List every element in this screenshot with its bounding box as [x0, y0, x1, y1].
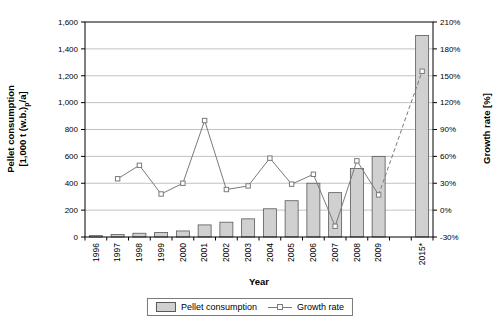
- right-axis-title: Growth rate [%]: [479, 69, 494, 189]
- y-left-tick-label: 1,000: [58, 98, 79, 107]
- growth-marker: [224, 187, 228, 191]
- growth-marker: [289, 182, 293, 186]
- x-tick-label: 2006: [308, 243, 318, 262]
- x-tick-label: 2001: [199, 243, 209, 262]
- y-left-tick-label: 800: [65, 125, 79, 134]
- y-right-tick-label: 120%: [440, 98, 460, 107]
- y-left-tick-label: 1,200: [58, 72, 79, 81]
- y-left-tick-label: 600: [65, 152, 79, 161]
- y-right-tick-label: -30%: [440, 233, 459, 242]
- bar-2015*: [416, 35, 429, 237]
- growth-marker: [246, 184, 250, 188]
- bar-2002: [220, 222, 233, 237]
- bar-2008: [350, 168, 363, 237]
- x-tick-label: 2015*: [417, 242, 427, 265]
- pellet-consumption-chart: 1,6001,4001,2001,0008006004002000210%180…: [0, 0, 500, 331]
- y-left-tick-label: 400: [65, 179, 79, 188]
- y-right-tick-label: 150%: [440, 72, 460, 81]
- bar-2000: [176, 231, 189, 237]
- x-tick-label: 2003: [243, 243, 253, 262]
- y-left-tick-label: 200: [65, 206, 79, 215]
- left-axis-title-line1: Pellet consumption: [5, 19, 17, 239]
- bar-2004: [263, 209, 276, 237]
- growth-marker: [181, 181, 185, 185]
- x-axis-title: Year: [85, 276, 433, 287]
- x-tick-label: 2002: [221, 243, 231, 262]
- x-tick-label: 2009: [373, 243, 383, 262]
- legend-growth-label: Growth rate: [297, 302, 344, 312]
- growth-marker: [311, 172, 315, 176]
- growth-rate-line-icon: [268, 303, 292, 312]
- y-left-tick-label: 1,400: [58, 45, 79, 54]
- x-tick-label: 2005: [286, 243, 296, 262]
- left-axis-title-line2: [1,000 t (w.b.)p/a]: [17, 19, 33, 239]
- x-tick-label: 1997: [112, 243, 122, 262]
- bar-2003: [242, 219, 255, 237]
- chart-legend: Pellet consumption Growth rate: [147, 298, 353, 316]
- x-tick-label: 2007: [330, 243, 340, 262]
- growth-marker: [355, 159, 359, 163]
- bar-2006: [307, 183, 320, 237]
- y-left-tick-label: 0: [74, 233, 79, 242]
- x-tick-label: 2004: [265, 243, 275, 262]
- growth-marker: [115, 177, 119, 181]
- x-tick-label: 1996: [91, 243, 101, 262]
- y-right-tick-label: 90%: [440, 125, 456, 134]
- x-tick-label: 2008: [352, 243, 362, 262]
- pellet-consumption-swatch-icon: [156, 302, 176, 312]
- growth-marker: [420, 69, 424, 73]
- x-tick-label: 1998: [134, 243, 144, 262]
- y-right-tick-label: 180%: [440, 45, 460, 54]
- growth-marker: [137, 163, 141, 167]
- x-tick-label: 2000: [178, 243, 188, 262]
- growth-marker: [333, 224, 337, 228]
- growth-marker: [202, 118, 206, 122]
- growth-marker: [268, 156, 272, 160]
- bar-1998: [133, 233, 146, 237]
- bar-2005: [285, 201, 298, 237]
- y-right-tick-label: 60%: [440, 152, 456, 161]
- bar-1999: [155, 233, 168, 237]
- growth-marker: [159, 192, 163, 196]
- y-right-tick-label: 210%: [440, 18, 460, 27]
- bar-2001: [198, 225, 211, 237]
- y-right-tick-label: 0%: [440, 206, 452, 215]
- y-right-tick-label: 30%: [440, 179, 456, 188]
- x-tick-label: 1999: [156, 243, 166, 262]
- growth-marker: [376, 193, 380, 197]
- legend-pellet-label: Pellet consumption: [181, 302, 257, 312]
- y-left-tick-label: 1,600: [58, 18, 79, 27]
- left-axis-title: Pellet consumption [1,000 t (w.b.)p/a]: [5, 19, 37, 239]
